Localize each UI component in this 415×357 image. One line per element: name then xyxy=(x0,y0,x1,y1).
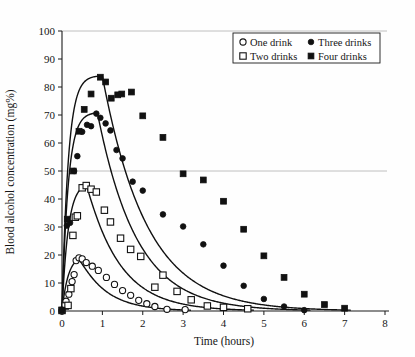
point-four-drinks-10 xyxy=(119,91,125,97)
curve-three-drinks xyxy=(62,113,310,311)
point-two-drinks-12 xyxy=(107,219,113,225)
point-one-drink-3 xyxy=(69,279,75,285)
point-three-drinks-9 xyxy=(98,115,104,121)
y-tick-label-50: 50 xyxy=(44,165,56,177)
point-two-drinks-11 xyxy=(101,207,107,213)
point-three-drinks-11 xyxy=(108,128,114,134)
point-three-drinks-16 xyxy=(160,212,166,218)
point-three-drinks-22 xyxy=(281,304,287,310)
point-three-drinks-13 xyxy=(120,156,126,162)
point-one-drink-4 xyxy=(71,272,77,278)
point-one-drink-11 xyxy=(103,274,109,280)
point-four-drinks-22 xyxy=(342,305,348,311)
x-tick-label-2: 2 xyxy=(140,317,146,329)
legend-label-four-drinks: Four drinks xyxy=(318,51,367,62)
point-two-drinks-6 xyxy=(74,213,80,219)
point-one-drink-17 xyxy=(152,303,158,309)
legend-marker-four-drinks xyxy=(308,53,314,59)
point-two-drinks-14 xyxy=(127,246,133,252)
point-one-drink-9 xyxy=(89,263,95,269)
point-four-drinks-13 xyxy=(160,135,166,141)
x-tick-label-6: 6 xyxy=(302,317,308,329)
point-two-drinks-3 xyxy=(68,285,74,291)
point-one-drink-16 xyxy=(144,301,150,307)
point-three-drinks-18 xyxy=(201,242,207,248)
x-tick-labels: 012345678 xyxy=(59,317,388,329)
y-tick-label-40: 40 xyxy=(44,193,56,205)
y-tick-label-10: 10 xyxy=(44,277,56,289)
point-four-drinks-18 xyxy=(261,253,267,259)
point-three-drinks-12 xyxy=(114,147,120,153)
point-four-drinks-21 xyxy=(322,302,328,308)
point-two-drinks-2 xyxy=(65,302,71,308)
y-tick-label-100: 100 xyxy=(39,25,56,37)
point-four-drinks-19 xyxy=(281,275,287,281)
legend-marker-one-drink xyxy=(240,39,246,45)
point-two-drinks-13 xyxy=(117,235,123,241)
x-tick-label-3: 3 xyxy=(180,317,186,329)
point-one-drink-15 xyxy=(136,297,142,303)
point-three-drinks-21 xyxy=(261,296,267,302)
x-tick-label-1: 1 xyxy=(100,317,106,329)
legend-marker-two-drinks xyxy=(240,53,246,59)
legend-label-two-drinks: Two drinks xyxy=(250,51,297,62)
point-three-drinks-10 xyxy=(103,121,109,127)
x-tick-label-7: 7 xyxy=(342,317,348,329)
legend-label-three-drinks: Three drinks xyxy=(318,37,371,48)
point-three-drinks-19 xyxy=(221,263,227,269)
point-one-drink-13 xyxy=(119,287,125,293)
point-three-drinks-7 xyxy=(88,123,94,129)
point-one-drink-19 xyxy=(182,307,188,313)
x-axis-title: Time (hours) xyxy=(194,335,254,348)
y-tick-label-60: 60 xyxy=(44,137,56,149)
chart-svg: 0102030405060708090100 012345678 One dri… xyxy=(0,0,415,357)
point-two-drinks-4 xyxy=(70,232,76,238)
point-two-drinks-20 xyxy=(204,303,210,309)
point-four-drinks-7 xyxy=(103,79,109,85)
point-three-drinks-15 xyxy=(140,188,146,194)
point-two-drinks-16 xyxy=(152,284,158,290)
point-four-drinks-17 xyxy=(241,226,247,232)
point-two-drinks-21 xyxy=(220,304,226,310)
point-four-drinks-5 xyxy=(88,91,94,97)
point-one-drink-14 xyxy=(128,292,134,298)
point-four-drinks-0 xyxy=(59,307,65,313)
y-tick-label-70: 70 xyxy=(44,109,56,121)
blood-alcohol-chart: 0102030405060708090100 012345678 One dri… xyxy=(0,0,415,357)
y-tick-label-20: 20 xyxy=(44,249,56,261)
point-two-drinks-19 xyxy=(188,297,194,303)
point-three-drinks-14 xyxy=(130,179,136,185)
point-four-drinks-2 xyxy=(70,168,76,174)
y-tick-label-80: 80 xyxy=(44,81,56,93)
point-two-drinks-18 xyxy=(174,288,180,294)
point-one-drink-18 xyxy=(164,306,170,312)
point-one-drink-10 xyxy=(95,267,101,273)
point-one-drink-8 xyxy=(83,259,89,265)
point-two-drinks-22 xyxy=(245,306,251,312)
x-tick-label-0: 0 xyxy=(59,317,65,329)
y-tick-label-0: 0 xyxy=(50,305,56,317)
point-four-drinks-12 xyxy=(140,113,146,119)
legend-marker-three-drinks xyxy=(308,39,314,45)
legend: One drinkThree drinksTwo drinksFour drin… xyxy=(233,33,380,63)
y-tick-labels: 0102030405060708090100 xyxy=(39,25,56,317)
point-four-drinks-15 xyxy=(200,177,206,183)
point-two-drinks-10 xyxy=(93,189,99,195)
point-two-drinks-15 xyxy=(138,253,144,259)
x-tick-label-4: 4 xyxy=(221,317,227,329)
legend-label-one-drink: One drink xyxy=(250,37,293,48)
point-one-drink-12 xyxy=(111,281,117,287)
x-tick-label-5: 5 xyxy=(261,317,267,329)
point-two-drinks-17 xyxy=(160,272,166,278)
point-four-drinks-4 xyxy=(81,107,87,113)
tick-marks xyxy=(58,31,385,315)
y-tick-label-90: 90 xyxy=(44,53,56,65)
x-tick-label-8: 8 xyxy=(382,317,388,329)
point-four-drinks-14 xyxy=(180,171,186,177)
point-three-drinks-4 xyxy=(75,153,81,159)
y-axis-title: Blood alcohol concentration (mg%) xyxy=(4,89,17,254)
point-four-drinks-8 xyxy=(108,95,114,101)
point-three-drinks-20 xyxy=(241,283,247,289)
point-four-drinks-16 xyxy=(221,198,227,204)
point-four-drinks-11 xyxy=(129,89,135,95)
